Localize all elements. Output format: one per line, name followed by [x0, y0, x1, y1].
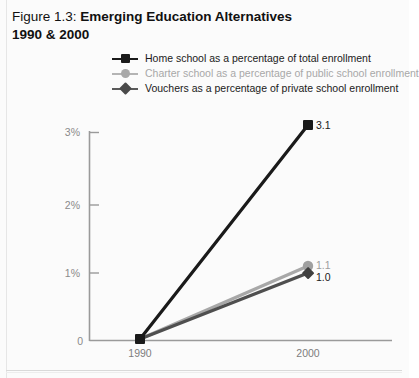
- data-label-charter-school-1-1: 1.1: [316, 259, 331, 271]
- page-edge-bottom: [6, 370, 402, 371]
- y-axis-label-1pct: 1%: [65, 267, 80, 279]
- series-line-vouchers: [140, 273, 308, 339]
- figure-number: Figure 1.3:: [12, 9, 77, 24]
- marker-charter-school-2000: [303, 261, 313, 271]
- x-axis-label-1990: 1990: [128, 347, 152, 359]
- page-edge-bottom-secondary: [6, 372, 402, 373]
- figure-title-text: Emerging Education Alternatives: [80, 9, 292, 24]
- marker-vouchers-2000: [302, 267, 315, 280]
- marker-origin-1990: [135, 334, 145, 344]
- marker-home-school-2000: [303, 120, 313, 130]
- legend-swatch-circle-icon: [112, 67, 138, 80]
- y-axis-label-zero: 0: [77, 335, 83, 347]
- chart-legend: Home school as a percentage of total enr…: [112, 51, 419, 96]
- figure-subtitle: 1990 & 2000: [12, 26, 392, 43]
- legend-item-home-school[interactable]: Home school as a percentage of total enr…: [112, 51, 419, 66]
- legend-label-vouchers: Vouchers as a percentage of private scho…: [145, 82, 398, 95]
- legend-label-home-school: Home school as a percentage of total enr…: [145, 52, 371, 65]
- figure-title-block: Figure 1.3: Emerging Education Alternati…: [12, 9, 392, 43]
- y-axis-label-3pct: 3%: [65, 126, 80, 138]
- series-line-charter-school: [140, 266, 308, 339]
- legend-label-charter-school: Charter school as a percentage of public…: [145, 67, 419, 80]
- data-label-home-school-3-1: 3.1: [316, 119, 331, 131]
- page-edge-left: [6, 0, 7, 378]
- legend-item-charter-school[interactable]: Charter school as a percentage of public…: [112, 66, 419, 81]
- legend-item-vouchers[interactable]: Vouchers as a percentage of private scho…: [112, 81, 419, 96]
- legend-swatch-square-icon: [112, 52, 138, 65]
- series-line-home-school: [140, 125, 308, 339]
- y-axis-label-2pct: 2%: [65, 199, 80, 211]
- x-axis-label-2000: 2000: [296, 347, 320, 359]
- legend-swatch-diamond-icon: [112, 82, 138, 95]
- page-title: Figure 1.3: Emerging Education Alternati…: [12, 9, 392, 25]
- data-label-vouchers-1-0: 1.0: [316, 271, 331, 283]
